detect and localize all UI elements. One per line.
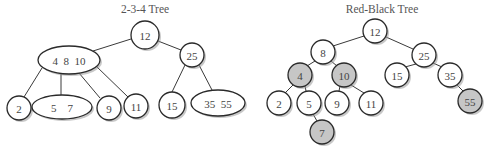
tree-node-n12: 12 [131,21,161,51]
node-label: 12 [370,26,381,38]
node-label: 2 [276,98,282,110]
node-label: 5 7 [51,102,74,114]
node-label: 55 [465,96,477,108]
two-three-four-tree: 2-3-4 Tree 12254 8 1025 79111535 55 [7,3,247,122]
tree-node-n35_55: 35 55 [191,90,247,118]
node-label: 35 [445,70,457,82]
node-label: 11 [131,101,142,113]
node-label: 4 8 10 [53,55,87,67]
tree-node-r9: 9 [325,91,351,117]
node-label: 2 [16,103,22,115]
tree-node-r25: 25 [412,43,438,69]
tree-node-r2: 2 [267,91,293,117]
node-label: 7 [319,127,325,139]
node-label: 25 [419,50,431,62]
diagram-title-234: 2-3-4 Tree [121,3,169,15]
tree-node-n2: 2 [7,96,33,122]
tree-node-r4: 4 [288,63,314,89]
node-label: 35 55 [204,98,232,110]
node-label: 15 [392,70,404,82]
edge-n4_8_10-n2 [24,68,42,97]
nodes-red-black: 12825410153525911557 [267,19,484,146]
tree-comparison-diagram: 2-3-4 Tree 12254 8 1025 79111535 55 Red-… [0,0,492,156]
edge-n25-n15 [172,65,185,92]
tree-node-n15: 15 [159,92,187,120]
tree-node-r10: 10 [332,63,358,89]
node-label: 10 [339,70,351,82]
node-label: 5 [306,98,312,110]
edge-n12-n25 [158,41,181,50]
diagram-title-red-black: Red-Black Tree [346,3,419,15]
edge-r12-r25 [386,37,413,49]
tree-node-r35: 35 [438,63,464,89]
tree-node-r5: 5 [297,91,323,117]
node-label: 9 [106,103,112,115]
edge-n25-n35_55 [199,65,212,90]
red-black-tree: Red-Black Tree 12825410153525911557 [267,3,484,146]
edge-n12-n4_8_10 [93,39,131,51]
nodes-234: 12254 8 1025 79111535 55 [7,21,247,122]
edge-n4_8_10-n11 [96,66,128,97]
tree-node-n9: 9 [97,96,123,122]
node-label: 8 [320,47,326,59]
node-label: 4 [297,70,303,82]
node-label: 11 [366,98,377,110]
edge-r4-r2 [285,85,293,93]
edge-r12-r8 [333,36,364,46]
tree-node-n25: 25 [180,43,206,69]
node-label: 9 [334,98,340,110]
edge-n4_8_10-n9 [79,73,100,98]
node-label: 15 [167,100,179,112]
tree-node-n5_7: 5 7 [32,95,94,121]
tree-node-r55: 55 [458,89,484,115]
tree-node-r12: 12 [363,19,389,45]
tree-node-r7: 7 [310,120,336,146]
tree-node-r11: 11 [359,91,385,117]
edge-r8-r4 [307,61,315,66]
node-label: 25 [187,50,199,62]
tree-node-n4_8_10: 4 8 10 [38,46,102,76]
tree-node-n11: 11 [124,94,150,120]
tree-node-r8: 8 [311,40,337,66]
node-label: 12 [140,30,151,42]
edge-r25-r15 [405,64,416,67]
